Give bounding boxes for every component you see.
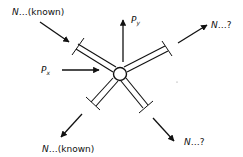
arrow-upper-right-force [178,25,207,43]
arrow-lower-right-force [153,118,174,141]
label-py: Py [131,15,140,27]
truss-joint-diagram: N…(known) N…? N…(known) N…? Px Py [0,0,243,157]
label-px-subscript: x [45,69,50,76]
label-rest: …? [191,137,205,147]
joint-node [114,68,127,81]
arrow-lower-left-force [61,114,82,137]
member-upper-left [76,44,116,72]
label-upper-left: N…(known) [12,7,64,17]
label-px: Px [41,65,50,76]
label-rest: …(known) [49,144,95,154]
member-lower-left [91,78,118,106]
member-upper-right [124,46,168,72]
label-rest: …(known) [19,7,65,17]
label-py-subscript: y [135,19,140,27]
member-lower-right [121,78,148,108]
speck [176,81,177,82]
label-rest: …? [218,20,232,30]
arrow-upper-left-force [40,22,69,42]
label-lower-right: N…? [184,137,205,147]
label-lower-left: N…(known) [42,144,94,154]
label-upper-right: N…? [211,20,232,30]
